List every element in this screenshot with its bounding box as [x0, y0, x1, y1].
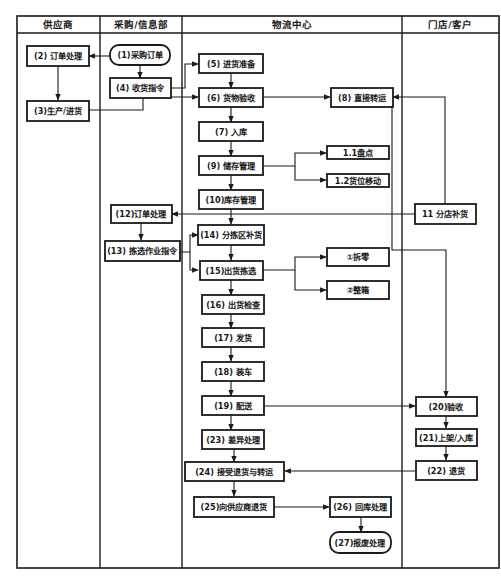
svg-text:(3)生产/进货: (3)生产/进货 [34, 106, 82, 116]
svg-text:(10)库存管理: (10)库存管理 [206, 195, 258, 205]
node-16-outbound-check: (16) 出货检查 [202, 295, 264, 314]
svg-text:(26) 回库处理: (26) 回库处理 [333, 502, 388, 512]
svg-text:(27)报废处理: (27)报废处理 [335, 538, 387, 548]
node-21-shelving: (21)上架/入库 [416, 429, 477, 446]
svg-text:(2) 订单处理: (2) 订单处理 [34, 51, 83, 61]
svg-text:(17) 发货: (17) 发货 [214, 333, 252, 343]
svg-text:(15)出货拣选: (15)出货拣选 [206, 266, 258, 276]
node-10-inventory-management: (10)库存管理 [199, 190, 263, 209]
svg-text:(14) 分拣区补货: (14) 分拣区补货 [200, 230, 262, 240]
node-14-picking-area-replenishment: (14) 分拣区补货 [198, 225, 264, 245]
svg-text:(16) 出货检查: (16) 出货检查 [206, 300, 261, 310]
node-17-shipping: (17) 发货 [202, 328, 264, 347]
svg-text:(18) 装车: (18) 装车 [214, 367, 252, 377]
lane-header-store: 门店/客户 [428, 19, 471, 30]
svg-text:(21)上架/入库: (21)上架/入库 [419, 433, 473, 443]
svg-text:(22) 退货: (22) 退货 [427, 466, 465, 476]
node-13-picking-instruction: (13) 拣选作业指令 [105, 241, 180, 261]
node-18-loading: (18) 装车 [202, 362, 264, 381]
node-25-return-to-supplier: (25)向供应商退货 [194, 497, 274, 517]
node-5-receiving-preparation: (5) 进货准备 [199, 54, 263, 73]
node-2-order-processing: (2) 订单处理 [27, 46, 89, 66]
node-19-delivery: (19) 配送 [202, 396, 264, 415]
node-12-order-processing: (12)订单处理 [111, 205, 172, 223]
svg-text:(5) 进货准备: (5) 进货准备 [207, 59, 256, 69]
svg-text:11 分店补货: 11 分店补货 [422, 209, 468, 219]
svg-text:(8) 直接转运: (8) 直接转运 [338, 93, 387, 103]
node-9b-location-move: 1.2货位移动 [327, 174, 389, 187]
svg-text:(19) 配送: (19) 配送 [214, 401, 253, 411]
svg-text:(25)向供应商退货: (25)向供应商退货 [201, 502, 268, 512]
svg-text:(1)采购订单: (1)采购订单 [117, 50, 162, 60]
node-23-discrepancy-handling: (23) 差异处理 [202, 430, 264, 449]
svg-text:(20)验收: (20)验收 [429, 402, 465, 412]
node-15a-split-case: ①拆零 [327, 248, 389, 266]
node-4-receiving-instruction: (4) 收货指令 [110, 78, 171, 98]
node-24-accept-returns: (24) 接受退货与转运 [185, 462, 284, 481]
node-7-warehousing: (7) 入库 [199, 122, 263, 141]
node-15b-full-case: ②整箱 [327, 281, 389, 299]
node-15-outbound-picking: (15)出货拣选 [200, 261, 263, 280]
node-26-return-to-stock: (26) 回库处理 [330, 497, 391, 517]
node-20-acceptance: (20)验收 [416, 397, 477, 416]
node-3-production-purchasing: (3)生产/进货 [27, 101, 89, 121]
node-22-returns: (22) 退货 [416, 461, 477, 480]
node-9-storage-management: (9) 储存管理 [199, 156, 263, 175]
svg-text:(7) 入库: (7) 入库 [215, 127, 247, 137]
svg-text:(4) 收货指令: (4) 收货指令 [116, 83, 165, 93]
svg-text:(6) 货物验收: (6) 货物验收 [207, 93, 256, 103]
svg-text:(13) 拣选作业指令: (13) 拣选作业指令 [107, 246, 178, 256]
lane-header-supplier: 供应商 [42, 19, 73, 30]
svg-text:①拆零: ①拆零 [347, 252, 371, 262]
svg-text:(9) 储存管理: (9) 储存管理 [207, 161, 256, 171]
node-8-cross-docking: (8) 直接转运 [331, 88, 393, 107]
svg-text:②整箱: ②整箱 [347, 285, 370, 295]
svg-text:(23) 差异处理: (23) 差异处理 [206, 435, 261, 445]
svg-text:1.2货位移动: 1.2货位移动 [335, 176, 382, 186]
node-9a-stocktaking: 1.1盘点 [327, 146, 389, 159]
node-6-goods-inspection: (6) 货物验收 [199, 88, 263, 107]
svg-text:1.1盘点: 1.1盘点 [343, 148, 375, 158]
node-11-store-replenishment: 11 分店补货 [415, 204, 476, 224]
svg-text:(12)订单处理: (12)订单处理 [116, 209, 168, 219]
logistics-flowchart: 供应商 采购/信息部 物流中心 门店/客户 [0, 0, 501, 584]
lane-header-purchasing: 采购/信息部 [113, 19, 167, 30]
node-1-purchase-order: (1)采购订单 [110, 45, 170, 65]
lane-header-logistics: 物流中心 [272, 19, 312, 30]
svg-text:(24) 接受退货与转运: (24) 接受退货与转运 [195, 467, 274, 477]
node-27-scrap-handling: (27)报废处理 [330, 532, 391, 553]
